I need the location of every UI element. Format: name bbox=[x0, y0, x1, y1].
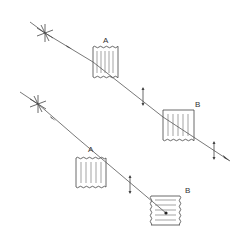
filter-a-label-top: A bbox=[103, 36, 109, 45]
ray-source-to-a-bottom bbox=[38, 104, 76, 137]
polarization-mark-vertical-icon-top-2 bbox=[213, 141, 216, 160]
ray-a-to-b-bottom bbox=[76, 137, 166, 213]
absorbed-light-dot bbox=[164, 211, 167, 214]
top-system: A B bbox=[30, 22, 230, 161]
ray-a-to-b-top bbox=[93, 62, 163, 117]
arrow-icon-out-top bbox=[223, 155, 230, 161]
bottom-system: A B bbox=[20, 92, 190, 225]
polarization-mark-vertical-icon-bottom bbox=[129, 175, 132, 194]
filter-b-label-top: B bbox=[195, 100, 200, 109]
filter-b-label-bottom: B bbox=[185, 186, 190, 195]
polarization-mark-vertical-icon-top-1 bbox=[142, 87, 145, 106]
filter-b-top bbox=[163, 110, 194, 141]
arrow-icon bbox=[66, 45, 72, 49]
filter-a-bottom bbox=[76, 157, 106, 188]
filter-a-top bbox=[93, 46, 118, 78]
filter-b-bottom bbox=[150, 196, 181, 225]
polarization-diagram: A B bbox=[0, 0, 241, 239]
